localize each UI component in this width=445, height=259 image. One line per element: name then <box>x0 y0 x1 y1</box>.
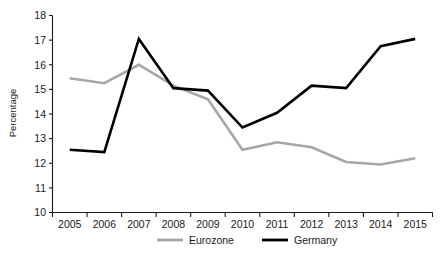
x-tick-label: 2007 <box>127 218 151 230</box>
x-tick-label: 2006 <box>93 218 117 230</box>
y-axis-title: Percentage <box>7 89 18 138</box>
x-tick-label: 2005 <box>58 218 82 230</box>
x-tick-label: 2009 <box>196 218 220 230</box>
line-chart: 101112131415161718 200520062007200820092… <box>0 0 445 259</box>
y-tick-label: 13 <box>34 132 46 144</box>
x-tick-label: 2011 <box>266 218 289 230</box>
y-tick-label: 10 <box>34 206 46 218</box>
y-tick-label: 15 <box>34 83 46 95</box>
x-tick-label: 2008 <box>162 218 186 230</box>
y-tick-label: 12 <box>34 157 46 169</box>
legend-label-germany: Germany <box>294 234 338 246</box>
x-tick-label: 2013 <box>334 218 358 230</box>
x-tick-label: 2010 <box>231 218 255 230</box>
y-tick-label: 18 <box>34 9 46 21</box>
chart-canvas: 101112131415161718 200520062007200820092… <box>0 0 445 259</box>
y-tick-label: 11 <box>35 182 46 194</box>
y-tick-label: 16 <box>34 59 46 71</box>
x-tick-label: 2015 <box>404 218 428 230</box>
x-tick-label: 2014 <box>369 218 393 230</box>
y-tick-label: 17 <box>34 34 46 46</box>
x-tick-label: 2012 <box>300 218 324 230</box>
legend-label-eurozone: Eurozone <box>189 234 234 246</box>
y-tick-label: 14 <box>34 108 46 120</box>
